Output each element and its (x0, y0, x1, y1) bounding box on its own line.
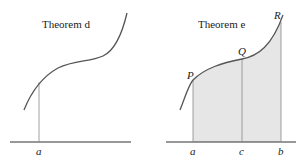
panel-title: Theorem d (42, 18, 90, 30)
panel-theorem-e: Theorem e P Q R a c b (166, 9, 296, 157)
label-a: a (36, 145, 42, 157)
label-b: b (278, 145, 284, 157)
label-P: P (186, 69, 194, 81)
theorem-diagrams: Theorem d a Theorem e P Q R a c b (0, 0, 296, 161)
shaded-region (193, 22, 281, 142)
label-a: a (190, 145, 196, 157)
label-c: c (239, 145, 244, 157)
label-Q: Q (238, 45, 246, 57)
panel-title: Theorem e (198, 18, 245, 30)
label-R: R (273, 9, 281, 21)
panel-theorem-d: Theorem d a (10, 13, 131, 157)
